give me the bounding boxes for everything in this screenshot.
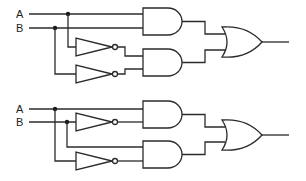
- not-bubble-b-top: [113, 72, 118, 77]
- wire-and2-to-or-top: [182, 50, 225, 63]
- wire-and1-to-or-top: [182, 22, 225, 35]
- and-gate-1-top: [143, 8, 182, 35]
- not-gate-b-bottom: [76, 113, 112, 131]
- logic-diagram: A B A B: [0, 0, 306, 181]
- input-label-b-bottom: B: [16, 116, 23, 128]
- wire-b-to-not-top: [55, 28, 76, 74]
- or-gate-bottom: [222, 120, 262, 150]
- or-gate-top: [222, 27, 262, 57]
- and-gate-2-top: [143, 49, 182, 76]
- not-gate-a-top: [76, 38, 112, 56]
- and-gate-1-bottom: [143, 101, 182, 128]
- circuit-bottom: A B: [16, 101, 289, 170]
- not-gate-b-top: [76, 65, 112, 83]
- input-label-a-bottom: A: [16, 103, 24, 115]
- wire-a-to-not-bottom: [55, 109, 76, 161]
- wire-notb-to-and2-top: [118, 69, 144, 74]
- wire-and2-to-or-bottom: [182, 142, 225, 155]
- and-gate-2-bottom: [143, 141, 182, 168]
- circuit-top: A B: [16, 8, 289, 83]
- wire-nota-to-and2-top: [118, 47, 144, 56]
- not-bubble-a-top: [113, 45, 118, 50]
- input-label-a-top: A: [16, 8, 24, 20]
- wire-and1-to-or-bottom: [182, 115, 225, 128]
- not-bubble-b-bottom: [113, 120, 118, 125]
- wire-a-to-not-top: [68, 14, 76, 47]
- not-gate-a-bottom: [76, 152, 112, 170]
- not-bubble-a-bottom: [113, 159, 118, 164]
- input-label-b-top: B: [16, 22, 23, 34]
